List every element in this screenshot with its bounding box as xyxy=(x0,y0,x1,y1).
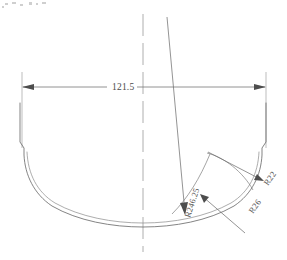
drawing-svg: 121.5 R246.25 R26 R22 xyxy=(0,0,287,260)
scan-artifacts xyxy=(2,2,46,8)
dimension-label-width: 121.5 xyxy=(112,82,134,92)
radius-label-r22: R22 xyxy=(261,169,278,187)
leader-line-r26 xyxy=(202,196,245,233)
technical-drawing-canvas: 121.5 R246.25 R26 R22 xyxy=(0,0,287,260)
radius-label-r26: R26 xyxy=(246,197,263,215)
dimension-arrow-left xyxy=(22,84,34,90)
leader-line-r246 xyxy=(167,17,185,213)
leader-line-r22 xyxy=(208,152,262,180)
leader-arrow-r26 xyxy=(200,194,209,203)
dimension-arrow-right xyxy=(254,84,266,90)
